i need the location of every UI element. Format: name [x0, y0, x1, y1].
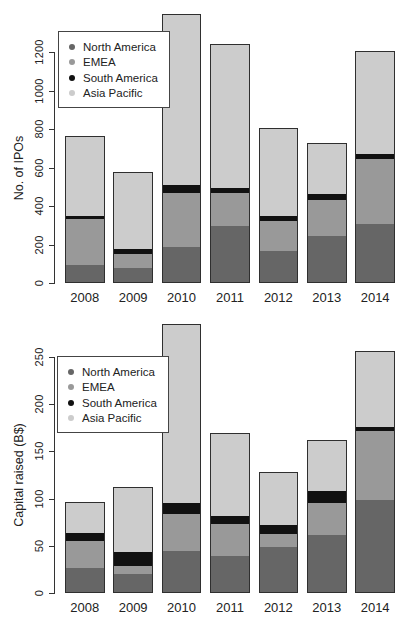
y-axis-line	[54, 357, 55, 594]
bar-segment-south-america	[308, 490, 346, 503]
legend-item-south-america: South America	[68, 395, 157, 411]
x-axis-label-2012: 2012	[264, 600, 293, 615]
bar-segment-asia-pacific	[114, 487, 152, 552]
capital-raised-chart: 050100150200250Capital raised (B$)200820…	[0, 310, 413, 621]
y-axis-tick-label: 200	[33, 395, 45, 414]
bar-segment-asia-pacific	[66, 502, 104, 532]
y-axis-tick-label: 150	[33, 442, 45, 461]
bar-segment-emea	[260, 220, 298, 251]
bar-segment-north-america	[308, 534, 346, 593]
bar-segment-emea	[114, 565, 152, 574]
legend-item-asia-pacific: Asia Pacific	[68, 411, 157, 427]
y-axis-tick-label: 800	[33, 120, 45, 139]
bar-segment-south-america	[308, 193, 346, 201]
legend-label: Asia Pacific	[83, 87, 142, 99]
legend-label: Asia Pacific	[82, 412, 141, 424]
x-axis-label-2009: 2009	[119, 600, 148, 615]
legend-label: North America	[83, 41, 156, 53]
x-axis-label-2008: 2008	[70, 290, 99, 305]
bar-segment-emea	[356, 158, 394, 224]
bar-2013	[307, 143, 347, 283]
legend-label: South America	[82, 397, 157, 409]
y-axis-tick-label: 250	[33, 348, 45, 367]
bar-segment-north-america	[356, 223, 394, 283]
bar-segment-north-america	[114, 573, 152, 593]
y-axis-tick-label: 1000	[33, 78, 45, 103]
bar-segment-emea	[308, 502, 346, 535]
y-axis-tick-label: 200	[33, 235, 45, 254]
legend-dot-north-america-icon	[68, 369, 74, 375]
bar-2009	[113, 172, 153, 283]
bar-segment-north-america	[211, 225, 249, 283]
bar-segment-south-america	[66, 532, 104, 541]
bar-2011	[210, 433, 250, 593]
legend-label: EMEA	[83, 56, 116, 68]
x-axis-label-2011: 2011	[216, 600, 244, 615]
y-axis-line	[54, 52, 55, 284]
y-axis-tick	[49, 91, 54, 92]
bar-segment-emea	[356, 430, 394, 501]
legend-dot-asia-pacific-icon	[68, 415, 74, 421]
x-axis-label-2013: 2013	[312, 600, 341, 615]
bar-segment-south-america	[211, 515, 249, 524]
y-axis-tick-label: 100	[33, 489, 45, 508]
legend-dot-south-america-icon	[68, 400, 74, 406]
y-axis-tick-label: 0	[33, 590, 45, 596]
x-axis-label-2014: 2014	[361, 290, 390, 305]
bar-segment-north-america	[163, 246, 201, 283]
bar-segment-south-america	[260, 524, 298, 533]
bar-segment-north-america	[308, 235, 346, 283]
bar-segment-emea	[260, 533, 298, 547]
bar-segment-asia-pacific	[114, 172, 152, 249]
bar-segment-north-america	[356, 499, 394, 593]
y-axis-tick-label: 600	[33, 158, 45, 177]
bar-segment-asia-pacific	[308, 440, 346, 491]
bar-segment-asia-pacific	[260, 472, 298, 525]
y-axis-tick	[49, 357, 54, 358]
x-axis-label-2010: 2010	[167, 600, 196, 615]
bar-segment-south-america	[163, 502, 201, 513]
x-axis-label-2011: 2011	[216, 290, 244, 305]
bar-segment-north-america	[66, 567, 104, 593]
bar-segment-asia-pacific	[66, 136, 104, 216]
legend-item-south-america: South America	[69, 70, 158, 86]
y-axis-tick	[49, 129, 54, 130]
legend-item-north-america: North America	[68, 364, 157, 380]
legend-dot-south-america-icon	[69, 75, 75, 81]
bar-2008	[65, 136, 105, 283]
x-axis-label-2014: 2014	[361, 600, 390, 615]
y-axis-tick	[49, 52, 54, 53]
legend-label: EMEA	[82, 381, 115, 393]
legend-dot-emea-icon	[69, 59, 75, 65]
bar-2009	[113, 487, 153, 593]
legend-item-north-america: North America	[69, 39, 158, 55]
y-axis-tick-label: 400	[33, 197, 45, 216]
bar-segment-asia-pacific	[356, 51, 394, 154]
legend-item-emea: EMEA	[68, 380, 157, 396]
bar-segment-asia-pacific	[211, 44, 249, 187]
bar-2014	[355, 351, 395, 593]
y-axis-tick-label: 50	[33, 539, 45, 552]
bar-segment-emea	[211, 192, 249, 226]
y-axis-tick-label: 0	[33, 280, 45, 286]
legend-dot-asia-pacific-icon	[69, 90, 75, 96]
x-axis-label-2010: 2010	[167, 290, 196, 305]
bar-segment-north-america	[163, 550, 201, 593]
bar-segment-north-america	[260, 250, 298, 283]
bar-segment-emea	[163, 192, 201, 247]
x-axis-label-2008: 2008	[70, 600, 99, 615]
bar-segment-south-america	[211, 187, 249, 194]
bar-segment-emea	[66, 540, 104, 567]
bar-segment-emea	[308, 199, 346, 236]
legend-label: North America	[82, 366, 155, 378]
x-axis-label-2009: 2009	[119, 290, 148, 305]
x-axis-label-2013: 2013	[312, 290, 341, 305]
x-axis-label-2012: 2012	[264, 290, 293, 305]
bar-2011	[210, 44, 250, 283]
y-axis-tick-label: 1200	[33, 39, 45, 64]
legend-item-asia-pacific: Asia Pacific	[69, 86, 158, 102]
legend-item-emea: EMEA	[69, 55, 158, 71]
bar-segment-emea	[114, 253, 152, 267]
bar-2013	[307, 440, 347, 593]
legend-dot-north-america-icon	[69, 44, 75, 50]
